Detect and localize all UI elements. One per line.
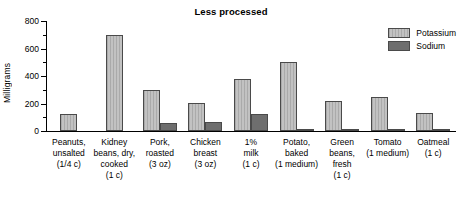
bar-group — [319, 101, 365, 131]
bar-potassium — [143, 90, 160, 131]
legend-swatch-potassium — [388, 28, 410, 38]
y-tick-label: 600 — [25, 44, 39, 53]
bar-group — [410, 113, 456, 131]
legend-item[interactable]: Potassium — [388, 28, 456, 38]
x-axis-label: Oatmeal (1 c) — [404, 137, 462, 159]
bar-potassium — [60, 114, 77, 131]
y-tick-major — [41, 21, 46, 22]
y-tick-label: 400 — [25, 72, 39, 81]
bar-sodium — [205, 122, 222, 131]
y-tick-label: 0 — [34, 127, 39, 136]
legend-swatch-sodium — [388, 41, 410, 51]
bar-group — [228, 79, 274, 131]
bar-group — [183, 103, 229, 131]
bar-group — [137, 90, 183, 131]
legend-item[interactable]: Sodium — [388, 41, 456, 51]
bar-group — [274, 62, 320, 131]
y-tick-label: 200 — [25, 99, 39, 108]
chart-legend: PotassiumSodium — [388, 28, 456, 51]
bar-potassium — [371, 97, 388, 131]
legend-label: Sodium — [416, 42, 445, 51]
bar-chart: Less processed Milligrams 0200400600800 … — [0, 0, 462, 199]
bar-potassium — [325, 101, 342, 131]
bar-sodium — [433, 129, 450, 131]
bar-sodium — [160, 123, 177, 131]
bar-group — [46, 114, 92, 131]
bar-sodium — [388, 129, 405, 131]
y-axis-title: Milligrams — [2, 48, 14, 118]
y-tick-minor — [43, 35, 46, 36]
bar-potassium — [234, 79, 251, 131]
chart-title: Less processed — [0, 6, 462, 17]
y-tick-major — [41, 104, 46, 105]
y-tick-major — [41, 131, 46, 132]
bar-sodium — [297, 129, 314, 131]
x-axis-line — [46, 131, 456, 132]
y-tick-label: 800 — [25, 17, 39, 26]
bar-sodium — [342, 129, 359, 131]
bar-potassium — [188, 103, 205, 131]
y-tick-minor — [43, 90, 46, 91]
bar-group — [365, 97, 411, 131]
legend-label: Potassium — [416, 29, 456, 38]
y-tick-major — [41, 49, 46, 50]
x-axis-labels: Peanuts, unsalted (1/4 c)Kidney beans, d… — [46, 137, 458, 197]
bar-group — [92, 35, 138, 131]
bar-potassium — [416, 113, 433, 131]
y-tick-major — [41, 76, 46, 77]
y-tick-minor — [43, 62, 46, 63]
bar-potassium — [280, 62, 297, 131]
bar-sodium — [251, 114, 268, 131]
bar-potassium — [106, 35, 123, 131]
